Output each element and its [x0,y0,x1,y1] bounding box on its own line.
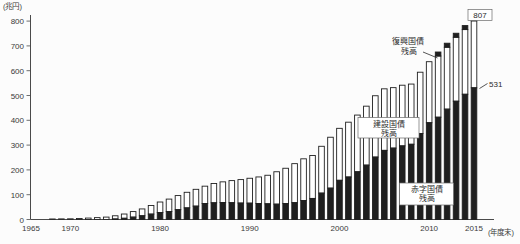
construction-segment-1996 [301,159,307,201]
construction-bond-label-line1: 建設国債 [373,119,405,129]
construction-segment-1978 [139,209,145,216]
bar-2004 [373,96,379,220]
construction-segment-1979 [148,206,154,215]
deficit-segment-1976 [121,218,127,219]
construction-segment-1972 [85,218,91,219]
construction-segment-1984 [193,189,199,206]
construction-segment-1988 [229,181,235,203]
bar-1988 [229,181,235,220]
deficit-segment-1996 [301,201,307,220]
bar-1987 [220,182,226,220]
deficit-segment-2002 [355,172,361,220]
reconstruction-bond-label-line2: 残高 [401,46,417,56]
construction-segment-2015 [471,21,477,88]
y-tick-label-800: 800 [11,17,25,26]
bond-balance-chart-svg: 0100200300400500600700800(兆円)19651970198… [0,0,520,244]
construction-segment-1985 [202,186,208,203]
construction-segment-1999 [328,137,334,188]
bar-1979 [148,206,154,220]
x-tick-label-2015: 2015 [465,224,483,233]
deficit-segment-1978 [139,216,145,220]
bar-1972 [85,218,91,219]
deficit-segment-1985 [202,204,208,220]
bar-2015 [471,17,477,220]
construction-segment-1977 [130,212,136,218]
deficit-segment-2009 [417,133,423,219]
bar-2001 [346,122,352,219]
deficit-bond-label-line1: 赤字国債 [411,184,443,194]
deficit-segment-1987 [220,202,226,219]
deficit-2015-leader-line [480,84,488,89]
construction-segment-1992 [265,175,271,204]
total-2015-value: 807 [473,11,487,20]
bar-1985 [202,186,208,219]
deficit-segment-2008 [408,144,414,219]
deficit-bond-label-line2: 残高 [419,193,435,203]
bar-1993 [274,172,280,220]
deficit-segment-1992 [265,204,271,220]
construction-bond-label-line2: 残高 [381,128,397,138]
construction-segment-1995 [292,164,298,203]
construction-segment-1973 [94,218,100,220]
construction-segment-1969 [59,219,65,220]
deficit-segment-1999 [328,188,334,219]
y-axis-unit-label: (兆円) [3,1,22,11]
bar-2000 [337,128,343,219]
bar-1980 [157,202,163,219]
construction-segment-1997 [310,156,316,199]
deficit-segment-1998 [319,193,325,219]
construction-segment-1976 [121,214,127,218]
deficit-segment-1986 [211,203,217,220]
construction-segment-1986 [211,184,217,203]
bar-1973 [94,218,100,220]
construction-segment-1991 [256,177,262,204]
x-axis-unit-label: (年度末) [488,227,514,237]
construction-segment-1974 [103,217,109,219]
bar-1998 [319,146,325,219]
construction-segment-2010 [426,62,432,123]
construction-segment-1982 [175,196,181,210]
deficit-segment-1989 [238,203,244,219]
deficit-segment-1982 [175,210,181,220]
bar-1970 [68,219,74,220]
construction-segment-2012 [444,47,450,109]
reconstruction-bond-label-line1: 復興国債 [392,36,424,46]
deficit-segment-1990 [247,203,253,219]
construction-segment-1975 [112,216,118,219]
bar-2006 [390,88,396,220]
bar-1991 [256,177,262,220]
bar-1990 [247,178,253,219]
deficit-segment-2013 [453,101,459,219]
construction-segment-1993 [274,172,280,204]
construction-segment-2000 [337,128,343,180]
deficit-segment-1997 [310,198,316,219]
deficit-segment-1988 [229,203,235,220]
deficit-segment-1975 [112,219,118,220]
bar-1992 [265,175,271,219]
deficit-segment-1991 [256,203,262,219]
reconstruction-segment-2011 [435,52,441,56]
bar-1989 [238,180,244,220]
deficit-segment-1979 [148,214,154,219]
deficit-segment-2000 [337,180,343,219]
construction-segment-1983 [184,192,190,208]
bar-1968 [50,219,56,220]
bar-2014 [462,26,468,220]
bar-1986 [211,184,217,220]
bar-1995 [292,164,298,220]
construction-segment-1968 [50,219,56,220]
bar-1971 [77,219,83,220]
construction-segment-2013 [453,37,459,101]
construction-segment-1970 [68,219,74,220]
y-tick-label-400: 400 [11,116,25,125]
reconstruction-segment-2012 [444,43,450,47]
deficit-segment-1995 [292,203,298,220]
bar-1976 [121,214,127,219]
bar-1981 [166,199,172,219]
deficit-segment-1977 [130,217,136,219]
deficit-segment-2001 [346,177,352,220]
x-tick-label-1990: 1990 [241,224,259,233]
construction-segment-1980 [157,202,163,212]
bar-1999 [328,137,334,219]
deficit-segment-2006 [390,148,396,219]
